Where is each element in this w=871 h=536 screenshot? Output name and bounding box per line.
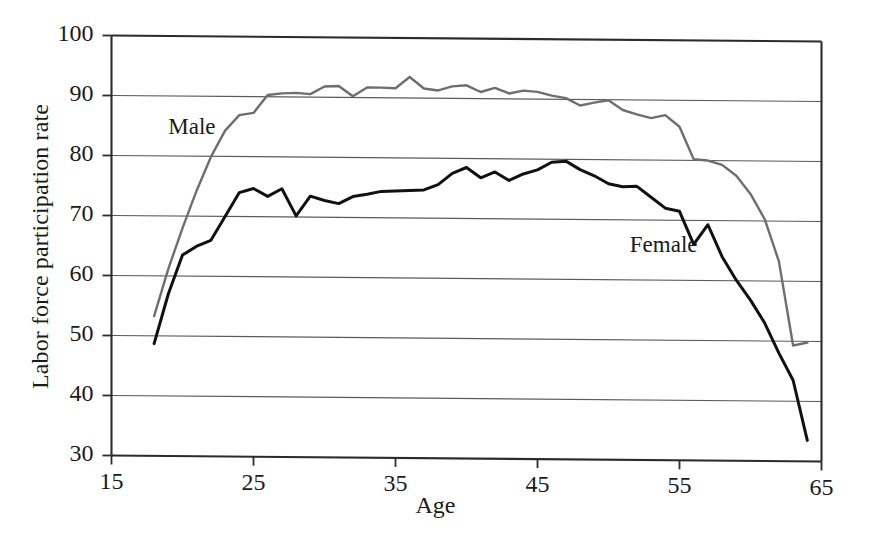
gridline-80	[112, 156, 822, 162]
gridline-30	[112, 456, 822, 462]
gridline-100	[112, 36, 822, 42]
data-series-layer	[154, 77, 807, 440]
gridlines	[112, 36, 822, 462]
gridline-40	[112, 396, 822, 402]
plot-frame	[112, 36, 822, 462]
chart-figure: Labor force participation rate Age 30405…	[0, 0, 871, 536]
gridline-90	[112, 96, 822, 102]
gridline-70	[112, 216, 822, 222]
gridline-60	[112, 276, 822, 282]
plot-area	[0, 0, 871, 536]
series-line-male	[154, 77, 807, 345]
gridline-50	[112, 336, 822, 342]
